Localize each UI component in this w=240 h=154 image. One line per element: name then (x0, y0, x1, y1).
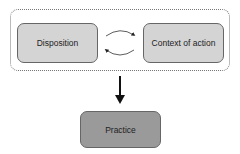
down-arrow-icon (115, 76, 125, 104)
practice-label: Practice (105, 125, 136, 135)
practice-node: Practice (80, 111, 161, 148)
cycle-icon (106, 31, 134, 55)
